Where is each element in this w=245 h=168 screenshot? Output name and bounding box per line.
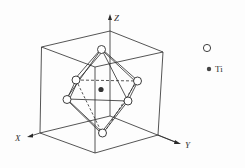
x-axis-label: X xyxy=(14,133,21,143)
y-axis-label: Y xyxy=(185,140,191,150)
legend-label-ti: Ti xyxy=(215,64,223,74)
y-axis: Y xyxy=(158,135,191,150)
legend-open-circle-icon xyxy=(203,44,210,51)
atom-right-back xyxy=(134,77,142,85)
atom-right-front xyxy=(124,97,132,105)
atom-left-back xyxy=(72,76,80,84)
ti-atom xyxy=(98,87,103,92)
tio6-octahedron-diagram: Z X Y xyxy=(0,0,245,168)
cube-edges xyxy=(40,31,175,153)
atom-bottom xyxy=(99,129,107,137)
atom-left-front xyxy=(63,96,71,104)
legend: Ti xyxy=(203,44,223,74)
atom-top xyxy=(98,46,106,54)
legend-filled-circle-icon xyxy=(207,67,211,71)
z-axis-label: Z xyxy=(114,13,120,23)
x-axis: X xyxy=(14,133,40,143)
